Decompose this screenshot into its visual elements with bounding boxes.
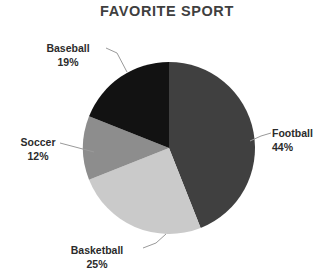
- pie-label-baseball: Baseball 19%: [27, 42, 109, 69]
- pie-label-football-name: Football: [272, 127, 313, 139]
- leader-line-basketball: [143, 234, 166, 248]
- pie-label-basketball-percent: 25%: [48, 258, 146, 272]
- leader-line-baseball: [106, 48, 127, 72]
- pie-label-soccer-name: Soccer: [20, 136, 55, 148]
- favorite-sport-pie-chart: FAVORITE SPORT Baseball 19% Soccer 12% B…: [0, 0, 334, 275]
- pie-label-football-percent: 44%: [272, 141, 334, 155]
- pie-label-football: Football 44%: [272, 127, 334, 154]
- pie-label-basketball-name: Basketball: [71, 244, 124, 256]
- pie-label-baseball-name: Baseball: [46, 42, 89, 54]
- pie-label-basketball: Basketball 25%: [48, 244, 146, 271]
- pie-label-soccer-percent: 12%: [2, 150, 74, 164]
- pie-label-baseball-percent: 19%: [27, 56, 109, 70]
- pie-label-soccer: Soccer 12%: [2, 136, 74, 163]
